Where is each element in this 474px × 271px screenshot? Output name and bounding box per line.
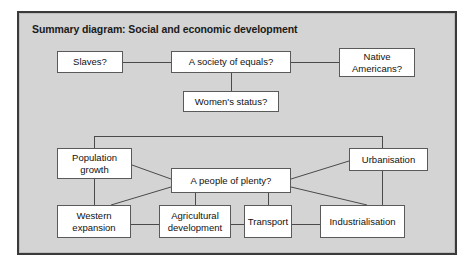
node-population-growth[interactable]: Populationgrowth <box>57 148 132 179</box>
node-transport[interactable]: Transport <box>244 205 292 238</box>
node-transport-label: Transport <box>248 216 288 228</box>
node-native-americans-label: NativeAmericans? <box>352 51 402 74</box>
node-slaves[interactable]: Slaves? <box>57 51 123 73</box>
node-society-of-equals-label: A society of equals? <box>189 56 274 68</box>
node-society-of-equals[interactable]: A society of equals? <box>171 51 291 73</box>
node-western-expansion[interactable]: Westernexpansion <box>57 205 131 238</box>
node-womens-status-label: Women's status? <box>195 96 267 108</box>
node-native-americans[interactable]: NativeAmericans? <box>339 48 415 77</box>
node-western-expansion-label: Westernexpansion <box>72 210 115 233</box>
edge-plenty-industrial <box>291 187 367 205</box>
node-agricultural-development-label: Agriculturaldevelopment <box>168 210 222 233</box>
edge-population-plenty <box>132 165 171 179</box>
node-population-growth-label: Populationgrowth <box>72 152 117 175</box>
node-slaves-label: Slaves? <box>73 56 107 68</box>
node-people-of-plenty-label: A people of plenty? <box>191 175 272 187</box>
node-urbanisation-label: Urbanisation <box>362 154 415 166</box>
diagram-panel: Summary diagram: Social and economic dev… <box>17 11 457 255</box>
node-industrialisation-label: Industrialisation <box>329 216 395 228</box>
diagram-canvas: Summary diagram: Social and economic dev… <box>0 0 474 271</box>
edge-population-urbanisation <box>94 136 382 148</box>
node-womens-status[interactable]: Women's status? <box>183 91 279 112</box>
edge-plenty-urbanisation <box>291 161 349 179</box>
node-urbanisation[interactable]: Urbanisation <box>349 148 428 171</box>
node-people-of-plenty[interactable]: A people of plenty? <box>171 168 291 193</box>
node-agricultural-development[interactable]: Agriculturaldevelopment <box>159 205 231 238</box>
edge-plenty-western <box>111 187 171 205</box>
node-industrialisation[interactable]: Industrialisation <box>320 205 405 238</box>
